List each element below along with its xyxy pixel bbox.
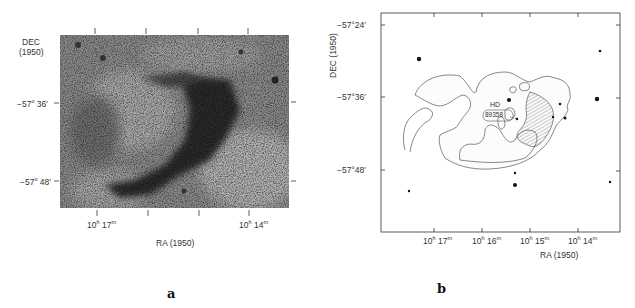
panel-b-y-axis-title: DEC (1950) xyxy=(328,33,338,78)
hd-label-line1: HD xyxy=(490,101,500,108)
panel-b-letter: b xyxy=(437,281,446,296)
panel-b-x-axis-title: RA (1950) xyxy=(540,250,578,260)
panel-b-x-tick-16: 10h 16m xyxy=(472,235,501,246)
panel-a-x-tick-17: 10h 17m xyxy=(87,219,116,230)
panel-a-y-axis-title: DEC (1950) xyxy=(19,37,44,57)
hd-label-line2: 89358 xyxy=(485,111,503,118)
panel-b-x-tick-15: 10h 15m xyxy=(520,235,549,246)
panel-a-y-tick-36: −57o 36′ xyxy=(17,98,48,109)
y-axis-title-line2: (1950) xyxy=(19,47,44,57)
panel-a-letter: a xyxy=(167,286,175,301)
panel-b-y-tick-24: −57°24′ xyxy=(337,20,366,30)
panel-a-graphics xyxy=(0,0,635,308)
y-axis-title-line1: DEC xyxy=(19,37,44,47)
panel-a-x-axis-title: RA (1950) xyxy=(156,238,194,248)
panel-b-y-tick-48: −57°48′ xyxy=(337,165,366,175)
panel-a-x-tick-14: 10h 14m xyxy=(239,219,268,230)
panel-b-x-tick-14: 10h 14m xyxy=(568,235,597,246)
panel-b-x-tick-17: 10h 17m xyxy=(423,235,452,246)
panel-b-y-tick-36: −57°36′ xyxy=(337,92,366,102)
panel-a-y-tick-48: −57o 48′ xyxy=(20,176,51,187)
photo-plate-image xyxy=(60,35,300,210)
